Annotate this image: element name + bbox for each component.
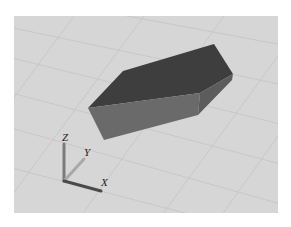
axes-gizmo xyxy=(64,144,101,191)
scene-canvas xyxy=(14,16,278,213)
3d-viewport[interactable]: Z Y X xyxy=(14,16,278,213)
x-axis xyxy=(64,181,101,191)
box-object xyxy=(88,44,233,140)
x-axis-label: X xyxy=(101,176,108,188)
z-axis-label: Z xyxy=(62,131,68,143)
y-axis xyxy=(64,159,84,181)
y-axis-label: Y xyxy=(84,146,90,158)
